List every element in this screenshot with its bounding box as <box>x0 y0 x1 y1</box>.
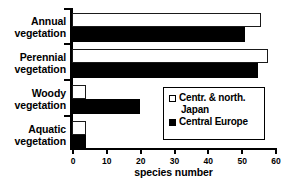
legend-item-japan: Centr. & north. Japan <box>169 92 264 115</box>
bar-annual-europe <box>72 27 245 42</box>
legend-label-line2: Japan <box>179 104 245 116</box>
category-label-line1: Perennial <box>0 52 66 64</box>
category-label-annual: Annual vegetation <box>0 16 66 39</box>
legend-item-europe: Central Europe <box>169 116 264 128</box>
x-axis-title: species number <box>72 166 275 178</box>
legend-label-europe: Central Europe <box>179 116 248 128</box>
x-axis-tick <box>174 148 176 154</box>
category-label-line2: vegetation <box>0 28 66 40</box>
y-axis-tick <box>64 8 72 10</box>
x-axis-tick <box>241 148 243 154</box>
bar-chart: Annual vegetation Perennial vegetation W… <box>0 0 284 188</box>
bar-annual-japan <box>72 13 261 27</box>
x-axis-tick <box>140 148 142 154</box>
x-axis-tick-label: 30 <box>163 156 187 166</box>
y-axis-tick <box>64 79 72 81</box>
x-axis-tick-label: 20 <box>129 156 153 166</box>
x-axis-tick-label: 40 <box>196 156 220 166</box>
open-square-icon <box>169 95 176 102</box>
x-axis-tick <box>275 148 277 154</box>
bar-aquatic-japan <box>72 121 86 135</box>
y-axis-tick <box>64 115 72 117</box>
bar-woody-europe <box>72 99 140 114</box>
filled-square-icon <box>169 119 176 126</box>
legend: Centr. & north. Japan Central Europe <box>163 87 265 140</box>
category-label-line2: vegetation <box>0 136 66 148</box>
bar-perennial-japan <box>72 49 268 63</box>
legend-label-line1: Centr. & north. <box>179 92 245 103</box>
bar-aquatic-europe <box>72 135 86 148</box>
category-label-line1: Aquatic <box>0 124 66 136</box>
category-label-aquatic: Aquatic vegetation <box>0 124 66 147</box>
y-axis-tick <box>64 43 72 45</box>
bar-perennial-europe <box>72 63 258 78</box>
x-axis-line <box>70 148 275 150</box>
category-axis-labels: Annual vegetation Perennial vegetation W… <box>0 8 66 148</box>
x-axis-tick-label: 60 <box>264 156 284 166</box>
category-label-woody: Woody vegetation <box>0 88 66 111</box>
category-label-line1: Annual <box>0 16 66 28</box>
category-label-line2: vegetation <box>0 64 66 76</box>
category-label-perennial: Perennial vegetation <box>0 52 66 75</box>
legend-label-japan: Centr. & north. Japan <box>179 92 245 115</box>
x-axis-tick-label: 10 <box>95 156 119 166</box>
category-label-line1: Woody <box>0 88 66 100</box>
x-axis-tick <box>106 148 108 154</box>
x-axis-tick-label: 0 <box>61 156 85 166</box>
x-axis-tick <box>207 148 209 154</box>
category-label-line2: vegetation <box>0 100 66 112</box>
x-axis-tick <box>72 148 74 154</box>
bar-woody-japan <box>72 85 86 99</box>
x-axis-tick-label: 50 <box>230 156 254 166</box>
